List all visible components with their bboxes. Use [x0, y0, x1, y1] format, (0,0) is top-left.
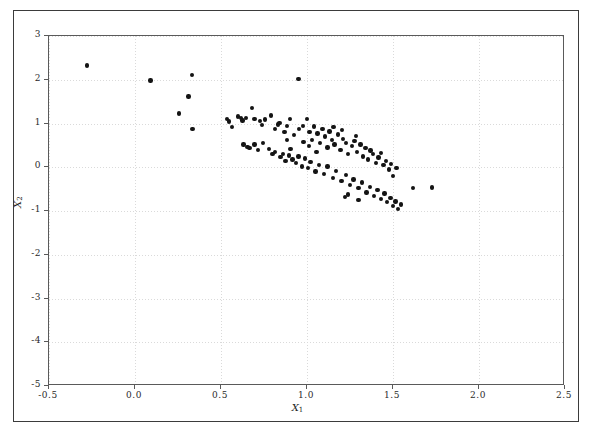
scatter-point [312, 124, 316, 128]
scatter-point [379, 151, 383, 155]
scatter-point [301, 124, 305, 128]
gridline-horizontal [49, 299, 563, 300]
scatter-point [385, 200, 389, 204]
x-axis-tick [134, 385, 135, 389]
x-axis-tick [392, 385, 393, 389]
scatter-point [292, 133, 296, 137]
scatter-point [366, 157, 370, 161]
y-axis-tick-label: 2 [7, 73, 41, 83]
x-axis-tick-label: 1.5 [372, 390, 412, 400]
scatter-point [371, 152, 375, 156]
scatter-point [387, 167, 391, 171]
scatter-point [352, 139, 356, 143]
scatter-point [306, 166, 310, 170]
scatter-point [346, 152, 350, 156]
y-axis-tick-label: -3 [7, 292, 41, 302]
x-axis-tick [564, 385, 565, 389]
scatter-point [313, 169, 317, 173]
scatter-point [374, 161, 378, 165]
scatter-point [277, 121, 281, 125]
gridline-vertical [221, 36, 222, 384]
scatter-point [285, 124, 289, 128]
gridline-vertical [135, 36, 136, 384]
scatter-point [186, 94, 190, 98]
y-axis-tick [44, 166, 48, 167]
scatter-point [364, 190, 368, 194]
scatter-point [355, 150, 359, 154]
scatter-point [348, 183, 352, 187]
x-axis-tick-label: 0.5 [200, 390, 240, 400]
y-axis-tick-label: -4 [7, 335, 41, 345]
scatter-point [244, 116, 248, 120]
scatter-point [263, 117, 267, 121]
y-axis-tick-label: 1 [7, 117, 41, 127]
scatter-point [391, 204, 395, 208]
scatter-point [269, 113, 273, 117]
scatter-point [360, 180, 364, 184]
scatter-point [85, 63, 89, 67]
scatter-point [273, 127, 277, 131]
scatter-point [247, 146, 251, 150]
scatter-point [288, 147, 292, 151]
scatter-point [361, 154, 365, 158]
scatter-point [394, 166, 398, 170]
scatter-point [323, 134, 327, 138]
scatter-point [230, 125, 234, 129]
scatter-point [356, 186, 360, 190]
y-axis-tick [44, 210, 48, 211]
scatter-point [285, 138, 289, 142]
scatter-point [267, 147, 271, 151]
scatter-point [358, 142, 362, 146]
scatter-point [281, 152, 285, 156]
scatter-point [282, 130, 286, 134]
gridline-vertical [307, 36, 308, 384]
y-axis-tick [44, 123, 48, 124]
scatter-point [320, 127, 324, 131]
scatter-point [252, 117, 256, 121]
scatter-point [331, 125, 335, 129]
scatter-point [336, 132, 340, 136]
y-axis-tick [44, 35, 48, 36]
scatter-point [260, 123, 264, 127]
scatter-point [388, 196, 392, 200]
scatter-point [307, 144, 311, 148]
x-axis-tick [478, 385, 479, 389]
scatter-point [148, 78, 152, 82]
plot-area [48, 35, 564, 385]
scatter-point [256, 148, 260, 152]
scatter-point [334, 169, 338, 173]
x-axis-tick-label: 2.5 [544, 390, 584, 400]
x-axis-tick-label: 0.0 [114, 390, 154, 400]
scatter-point [250, 106, 254, 110]
x-axis-label: X1 [0, 402, 595, 414]
y-axis-tick [44, 385, 48, 386]
gridline-horizontal [49, 36, 563, 37]
scatter-point [430, 185, 434, 189]
scatter-point [190, 73, 194, 77]
scatter-point [344, 141, 348, 145]
scatter-point [368, 185, 372, 189]
scatter-point [227, 119, 231, 123]
y-axis-tick [44, 254, 48, 255]
gridline-vertical [393, 36, 394, 384]
scatter-point [356, 198, 360, 202]
scatter-point [288, 117, 292, 121]
gridline-horizontal [49, 211, 563, 212]
scatter-point [261, 141, 265, 145]
y-axis-tick [44, 298, 48, 299]
scatter-point [399, 202, 403, 206]
scatter-point [315, 131, 319, 135]
scatter-point [318, 141, 322, 145]
scatter-point [411, 186, 415, 190]
scatter-point [339, 179, 343, 183]
gridline-horizontal [49, 80, 563, 81]
scatter-point [296, 154, 300, 158]
scatter-point [343, 195, 347, 199]
gridline-horizontal [49, 124, 563, 125]
scatter-point [354, 134, 358, 138]
scatter-point [350, 144, 354, 148]
scatter-point [325, 164, 329, 168]
scatter-point [294, 161, 298, 165]
y-axis-tick [44, 79, 48, 80]
x-axis-tick [220, 385, 221, 389]
